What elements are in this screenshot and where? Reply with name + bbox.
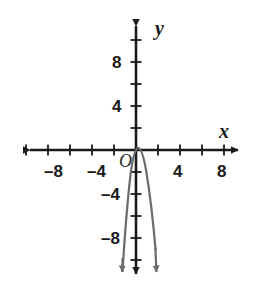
y-tick-label-neg4: –4 (101, 186, 120, 203)
x-tick-label-4: 4 (173, 163, 182, 180)
x-tick-label-8: 8 (217, 163, 226, 180)
y-axis-label: y (155, 18, 164, 38)
y-tick-label-neg8: –8 (101, 230, 120, 247)
x-tick-label-neg8: –8 (44, 163, 63, 180)
x-axis-label: x (219, 121, 229, 141)
parabola-right-arrow (155, 248, 156, 272)
y-tick-label-4: 4 (112, 98, 121, 115)
y-tick-label-8: 8 (112, 54, 121, 71)
origin-label: O (119, 152, 132, 170)
x-tick-label-neg4: –4 (87, 163, 106, 180)
x-axis (26, 145, 238, 156)
graph-figure: –8 –4 4 8 8 4 –4 –8 y x O (0, 0, 268, 290)
coordinate-plane-plot (0, 0, 268, 290)
